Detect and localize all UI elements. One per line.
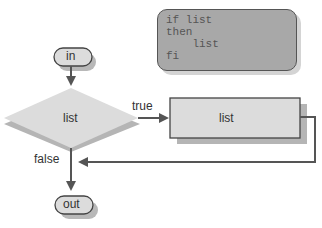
condition-label: list <box>63 111 78 125</box>
code-line-1: if list <box>166 14 212 26</box>
action-process-box <box>170 98 300 138</box>
out-label: out <box>63 197 80 211</box>
code-line-4: fi <box>166 50 179 62</box>
code-line-3: list <box>166 38 219 50</box>
true-label: true <box>132 99 153 113</box>
code-line-2: then <box>166 26 192 38</box>
code-snippet: if list then list fi <box>157 9 297 71</box>
false-label: false <box>34 152 59 166</box>
in-label: in <box>66 49 75 63</box>
action-label: list <box>219 111 234 125</box>
